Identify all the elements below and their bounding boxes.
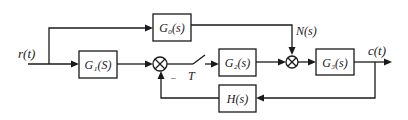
block-g2-label: G₂(s) <box>225 56 251 70</box>
arrow-to-g2 <box>211 61 219 68</box>
summing-junction-1 <box>153 57 167 71</box>
block-g3-label: G₃(s) <box>322 56 348 70</box>
sampler-switch <box>193 55 205 64</box>
block-diagram: r(t) G₀(s) N(s) G₁(S) − T G₂(s) G₃(s) <box>0 0 408 120</box>
output-label: c(t) <box>368 43 386 58</box>
block-g0-label: G₀(s) <box>159 21 185 35</box>
arrow-to-sum2-top <box>289 47 296 55</box>
feedback-sign: − <box>170 73 177 84</box>
arrow-to-sum2 <box>278 59 286 66</box>
g0-output-line <box>191 25 292 50</box>
block-g1-label: G₁(S) <box>85 58 112 72</box>
arrow-to-h <box>256 95 264 102</box>
arrow-to-g3 <box>308 59 316 66</box>
sampler-label: T <box>188 69 196 83</box>
arrow-to-g0 <box>145 25 153 32</box>
arrow-to-sum1-bottom <box>158 71 165 79</box>
summing-junction-2 <box>286 56 298 68</box>
arrow-to-g1 <box>71 61 79 68</box>
arrow-to-sum1 <box>145 61 153 68</box>
output-arrow <box>384 59 392 66</box>
disturbance-label: N(s) <box>295 24 317 38</box>
block-h-label: H(s) <box>226 92 248 106</box>
input-label: r(t) <box>18 46 35 61</box>
